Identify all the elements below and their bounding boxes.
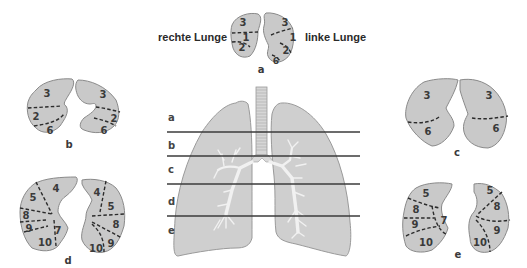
lung-segments-diagram: 3 1 2 3 1 2 6 a rechte Lunge linke Lunge… — [0, 0, 527, 268]
frontal-lung-view: a b c d e — [167, 87, 360, 256]
seg-label: 8 — [113, 219, 120, 230]
seg-label: 2 — [239, 42, 246, 53]
seg-label: 3 — [100, 89, 107, 100]
seg-label: 2 — [111, 113, 118, 124]
seg-label: 6 — [273, 56, 279, 66]
section-b-right-lung-b — [76, 80, 119, 133]
left-lung-label: linke Lunge — [305, 31, 366, 43]
seg-label: 2 — [33, 111, 40, 122]
section-caption-d: d — [64, 255, 71, 266]
seg-label: 3 — [486, 90, 493, 101]
seg-label: 9 — [494, 225, 501, 236]
seg-label: 3 — [424, 90, 431, 101]
seg-label: 6 — [493, 123, 500, 134]
right-lung-label: rechte Lunge — [158, 31, 227, 43]
level-label-a: a — [168, 112, 175, 123]
level-label-b: b — [168, 140, 175, 151]
seg-label: 5 — [30, 192, 37, 203]
section-e: 5 8 9 7 10 5 8 9 10 e — [403, 183, 510, 260]
level-label-d: d — [168, 196, 175, 207]
trachea-rings — [256, 90, 267, 150]
section-caption-e: e — [455, 249, 462, 260]
seg-label: 5 — [487, 185, 494, 196]
seg-label: 9 — [412, 219, 419, 230]
section-d: 4 5 8 9 7 10 4 5 8 9 10 d — [20, 177, 125, 266]
section-a: 3 1 2 3 1 2 6 a rechte Lunge linke Lunge — [158, 13, 366, 75]
seg-label: 5 — [108, 201, 115, 212]
seg-label: 3 — [44, 88, 51, 99]
seg-label: 6 — [47, 125, 54, 136]
level-label-c: c — [168, 164, 174, 175]
seg-label: 10 — [419, 237, 433, 248]
seg-label: 8 — [413, 204, 420, 215]
seg-label: 2 — [283, 45, 290, 56]
level-label-e: e — [168, 225, 175, 236]
seg-label: 8 — [23, 210, 30, 221]
section-caption-a: a — [258, 64, 265, 75]
seg-label: 6 — [101, 125, 108, 136]
seg-label: 5 — [423, 188, 430, 199]
seg-label: 1 — [290, 32, 297, 43]
seg-label: 7 — [441, 215, 448, 226]
left-lung-frontal — [271, 103, 351, 256]
section-c: 3 6 3 6 c — [406, 79, 508, 158]
section-b: 3 2 6 3 2 6 b — [27, 79, 120, 150]
section-caption-b: b — [65, 139, 72, 150]
trachea — [256, 87, 267, 155]
seg-label: 9 — [26, 223, 33, 234]
seg-label: 9 — [108, 238, 115, 249]
section-c-left-lung — [460, 79, 507, 148]
seg-label: 10 — [473, 237, 487, 248]
seg-label: 6 — [425, 126, 432, 137]
section-caption-c: c — [454, 147, 460, 158]
seg-label: 4 — [53, 183, 60, 194]
section-d-left-lung — [82, 179, 125, 252]
section-c-right-lung — [406, 79, 458, 146]
seg-label: 4 — [94, 187, 101, 198]
seg-label: 8 — [494, 201, 501, 212]
seg-label: 10 — [89, 243, 103, 254]
seg-label: 7 — [55, 225, 62, 236]
seg-label: 10 — [38, 237, 52, 248]
right-lung-frontal — [174, 101, 252, 256]
seg-label: 3 — [282, 17, 289, 28]
seg-label: 3 — [240, 17, 247, 28]
